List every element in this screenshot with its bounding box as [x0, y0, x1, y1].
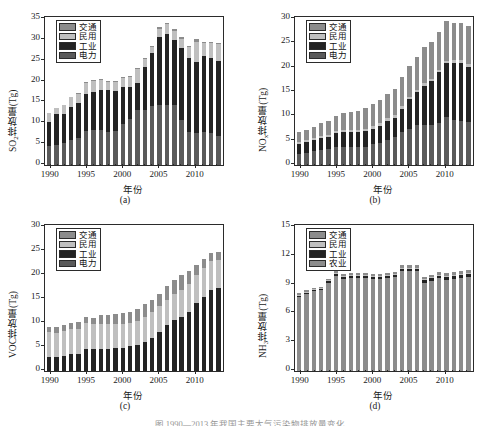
bar-segment-工业	[113, 91, 117, 131]
bar-2004	[400, 77, 404, 165]
panel-d: 0369121519901995200020052010 NH3排放量(Tg) …	[250, 210, 500, 406]
x-tick-mark	[180, 370, 181, 372]
bar-segment-工业	[179, 317, 183, 371]
x-axis-label-c: 年份	[44, 388, 222, 402]
bar-segment-工业	[356, 132, 360, 147]
x-tick-label: 2010	[175, 375, 215, 385]
legend-label-power: 电力	[329, 51, 347, 60]
bar-segment-交通	[121, 313, 125, 324]
legend-swatch-transport	[309, 23, 326, 31]
bar-2007	[422, 277, 426, 371]
bar-segment-工业	[363, 131, 367, 146]
bar-segment-工业	[371, 129, 375, 145]
bar-2004	[150, 300, 154, 371]
bar-segment-工业	[47, 357, 51, 370]
bar-segment-电力	[202, 132, 206, 165]
bar-segment-民用	[54, 333, 58, 357]
y-tick-mark	[41, 80, 44, 81]
y-tick-label: 30	[0, 220, 44, 229]
bar-segment-工业	[459, 63, 463, 121]
bar-segment-民用	[179, 39, 183, 48]
bar-segment-民用	[143, 59, 147, 67]
bar-segment-电力	[91, 130, 95, 165]
y-tick-label: 15	[250, 220, 294, 229]
bar-segment-工业	[393, 118, 397, 137]
bar-segment-交通	[187, 271, 191, 284]
x-tick-mark	[372, 164, 373, 168]
bar-2011	[452, 272, 456, 371]
bar-segment-电力	[179, 120, 183, 165]
x-tick-mark	[336, 370, 337, 374]
bar-segment-工业	[312, 140, 316, 151]
x-tick-mark	[459, 370, 460, 372]
bar-segment-工业	[452, 63, 456, 119]
bar-1996	[91, 80, 95, 165]
bar-segment-电力	[444, 117, 448, 165]
bar-segment-民用	[172, 294, 176, 320]
bar-segment-工业	[319, 138, 323, 150]
bar-segment-农业	[407, 271, 411, 371]
legend-a: 交通 民用 工业 电力	[56, 20, 101, 63]
bar-segment-工业	[157, 332, 161, 370]
x-tick-label: 1995	[66, 169, 106, 179]
y-tick-mark	[291, 225, 294, 226]
y-axis-label-c-text: VOC排放量(Tg)	[8, 291, 18, 358]
x-tick-mark	[64, 370, 65, 372]
bar-segment-电力	[54, 145, 58, 165]
y-tick-mark	[291, 139, 294, 140]
x-tick-mark	[336, 164, 337, 168]
y-tick-label: 0	[250, 158, 294, 167]
bar-1991	[304, 290, 308, 371]
legend-swatch-power	[59, 260, 76, 268]
bar-segment-工业	[157, 37, 161, 105]
bar-segment-农业	[385, 278, 389, 371]
x-tick-label: 1995	[316, 375, 356, 385]
x-tick-label: 2000	[352, 169, 392, 179]
x-tick-mark	[50, 164, 51, 168]
y-tick-mark	[41, 273, 44, 274]
bar-segment-民用	[76, 94, 80, 103]
x-tick-mark	[93, 164, 94, 166]
y-axis-label-d: NH3排放量(Tg)	[256, 236, 270, 358]
bar-segment-电力	[437, 123, 441, 165]
x-tick-mark	[216, 164, 217, 166]
bar-segment-工业	[165, 325, 169, 371]
bar-segment-民用	[157, 29, 161, 37]
bar-segment-工业	[172, 320, 176, 370]
bar-segment-民用	[91, 324, 95, 349]
bar-2010	[194, 265, 198, 371]
bar-segment-工业	[209, 58, 213, 133]
bar-segment-工业	[216, 61, 220, 136]
bar-1990	[297, 132, 301, 165]
x-tick-mark	[466, 164, 467, 166]
bar-2001	[378, 100, 382, 165]
bar-segment-工业	[179, 48, 183, 120]
legend-label-residential: 民用	[79, 240, 97, 249]
legend-swatch-residential	[59, 33, 76, 41]
x-tick-mark	[209, 370, 210, 372]
bar-segment-电力	[150, 106, 154, 165]
x-tick-label: 1990	[280, 375, 320, 385]
y-tick-mark	[41, 225, 44, 226]
bar-segment-电力	[187, 132, 191, 165]
y-tick-mark	[41, 163, 44, 164]
bar-segment-工业	[429, 81, 433, 124]
panel-tag-c: (c)	[0, 401, 250, 411]
bar-2007	[422, 47, 426, 165]
bar-segment-农业	[378, 279, 382, 371]
bar-segment-工业	[69, 107, 73, 140]
bar-segment-电力	[113, 131, 117, 165]
x-tick-mark	[423, 164, 424, 166]
bar-segment-民用	[165, 300, 169, 325]
bar-segment-交通	[371, 104, 375, 126]
legend-item-power: 电力	[59, 259, 97, 268]
bar-segment-工业	[341, 132, 345, 147]
bar-1995	[334, 271, 338, 371]
x-tick-mark	[459, 164, 460, 166]
bar-segment-农业	[452, 279, 456, 371]
x-tick-mark	[180, 164, 181, 166]
bar-2008	[179, 37, 183, 165]
bar-1998	[106, 315, 110, 371]
y-tick-mark	[291, 114, 294, 115]
x-tick-mark	[122, 164, 123, 168]
